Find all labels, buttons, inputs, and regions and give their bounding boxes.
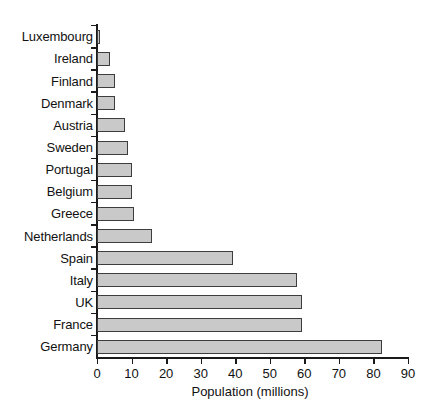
x-axis-tick-label: 80 [366,366,380,381]
y-axis-tick [91,136,97,137]
bar-row [97,224,408,248]
x-axis-tick-label: 50 [263,366,277,381]
x-axis-tick [201,358,202,364]
bar-row [97,25,408,49]
bar-row [97,268,408,292]
x-axis-tick [166,358,167,364]
x-axis-tick-label: 30 [193,366,207,381]
y-axis-tick [91,91,97,92]
x-axis-tick [408,358,409,364]
bar [97,52,110,66]
x-axis-title-text: Population (millions) [191,384,308,399]
x-axis-tick-label: 40 [228,366,242,381]
y-axis-tick [91,335,97,336]
y-axis-label-finland: Finland [0,69,93,93]
y-axis-label-luxembourg: Luxembourg [0,25,93,49]
bar-row [97,47,408,71]
y-axis-tick [91,224,97,225]
bar [97,118,125,132]
y-axis-tick [91,268,97,269]
y-axis-label-portugal: Portugal [0,158,93,182]
y-axis-tick [91,180,97,181]
bar-row [97,158,408,182]
bar [97,185,132,199]
bar [97,30,100,44]
x-axis-tick-label: 0 [93,366,100,381]
y-axis-tick [91,114,97,115]
bar [97,163,132,177]
y-axis-tick [91,202,97,203]
y-axis-label-germany: Germany [0,335,93,359]
y-axis-label-netherlands: Netherlands [0,224,93,248]
bar-row [97,335,408,359]
x-axis-tick [373,358,374,364]
y-axis-tick [91,291,97,292]
x-axis-tick [132,358,133,364]
bar-row [97,291,408,315]
bar-row [97,246,408,270]
y-axis-label-uk: UK [0,291,93,315]
bar [97,207,134,221]
x-axis-tick-label: 10 [124,366,138,381]
x-axis-tick-label: 60 [297,366,311,381]
bar [97,96,115,110]
bar-row [97,313,408,337]
y-axis-label-austria: Austria [0,114,93,138]
bar-rows [97,25,408,357]
y-axis-label-spain: Spain [0,246,93,270]
x-axis-tick-label: 70 [332,366,346,381]
y-axis-label-ireland: Ireland [0,47,93,71]
bar [97,141,128,155]
bar [97,273,297,287]
y-axis-tick [91,69,97,70]
x-axis-tick [235,358,236,364]
y-axis-label-belgium: Belgium [0,180,93,204]
bar-row [97,136,408,160]
y-axis-label-denmark: Denmark [0,91,93,115]
y-axis-tick [91,158,97,159]
x-axis-tick-label: 90 [401,366,415,381]
y-axis-tick [91,47,97,48]
bar [97,229,152,243]
y-axis-tick [91,246,97,247]
y-axis-label-sweden: Sweden [0,136,93,160]
bar [97,251,233,265]
bar [97,340,382,354]
y-axis-label-france: France [0,313,93,337]
bar [97,318,302,332]
bar-row [97,180,408,204]
y-axis-tick [91,313,97,314]
y-axis-tick [91,25,97,26]
x-axis-line [96,357,409,359]
bar-row [97,91,408,115]
bar-row [97,114,408,138]
x-axis-tick [339,358,340,364]
x-axis-tick-label: 20 [159,366,173,381]
x-axis-title: Population (millions) [0,384,440,399]
y-axis-category-labels: LuxembourgIrelandFinlandDenmarkAustriaSw… [0,25,93,357]
x-axis-tick [270,358,271,364]
bar-row [97,202,408,226]
y-axis-label-greece: Greece [0,202,93,226]
x-axis-tick [304,358,305,364]
y-axis-label-italy: Italy [0,268,93,292]
bar-row [97,69,408,93]
bar [97,74,115,88]
x-axis-tick [97,358,98,364]
plot-area [97,25,408,357]
bar-chart: LuxembourgIrelandFinlandDenmarkAustriaSw… [0,0,440,417]
bar [97,295,302,309]
